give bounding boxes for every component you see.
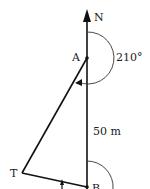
angle-arc-a — [78, 32, 114, 84]
label-b: B — [92, 182, 100, 189]
label-a: A — [71, 51, 81, 64]
label-distance: 50 m — [93, 125, 121, 138]
label-north: N — [94, 11, 104, 24]
north-arrow-icon — [83, 9, 91, 22]
line-at — [22, 58, 87, 173]
label-t: T — [10, 167, 18, 180]
line-tb — [22, 173, 87, 187]
point-b — [85, 185, 89, 189]
bearing-diagram: N A 210° 50 m T B — [0, 0, 150, 189]
point-a — [85, 56, 89, 60]
arc-arrow-icon — [75, 79, 82, 86]
label-angle: 210° — [116, 51, 143, 64]
